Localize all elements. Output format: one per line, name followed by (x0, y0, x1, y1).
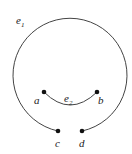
vertex-d (80, 129, 85, 134)
vertex-label-c: c (55, 137, 60, 149)
vertex-a (42, 90, 47, 95)
graph-diagram: e1 e2 a b c d (0, 0, 132, 154)
edge-e1 (13, 18, 127, 131)
vertex-label-a: a (34, 94, 40, 106)
vertex-label-b: b (98, 94, 104, 106)
edge-label-e1: e1 (16, 14, 24, 29)
vertex-label-d: d (79, 137, 85, 149)
vertex-c (56, 129, 61, 134)
